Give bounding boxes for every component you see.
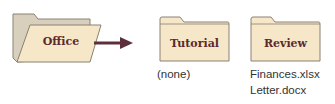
file-entry: (none) [157,66,190,82]
arrow-icon [94,37,133,49]
file-entry: Finances.xlsx [250,66,320,82]
tutorial-contents: (none) [157,66,190,82]
tutorial-folder-label: Tutorial [160,37,229,50]
review-contents: Finances.xlsx Letter.docx [250,66,320,98]
review-folder-label: Review [251,37,320,50]
office-folder-label: Office [30,35,92,48]
file-entry: Letter.docx [250,82,320,98]
